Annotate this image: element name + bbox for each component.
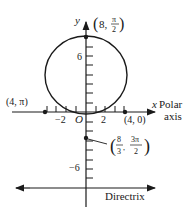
svg-text:2: 2 xyxy=(112,25,116,34)
polar-axis-label-2: axis xyxy=(164,110,182,122)
y-axis-label: y xyxy=(74,14,80,26)
origin-label: O xyxy=(75,113,83,125)
tick-label-neg6: −6 xyxy=(69,162,80,173)
point-top xyxy=(84,35,88,39)
label-top-point: ( 8, π 2 ) xyxy=(93,15,124,34)
svg-text:8,: 8, xyxy=(99,18,108,30)
point-bottom xyxy=(84,136,88,140)
svg-text:): ) xyxy=(119,15,124,33)
svg-text:,: , xyxy=(123,143,125,152)
tick-label-2: 2 xyxy=(101,114,106,125)
svg-text:(: ( xyxy=(93,15,98,33)
svg-text:8: 8 xyxy=(117,135,121,144)
svg-text:3π: 3π xyxy=(131,135,139,144)
label-bottom-point: ( 8 3 , 3π 2 ) xyxy=(110,135,150,157)
label-left-point: (4, π) xyxy=(6,96,28,108)
svg-text:(: ( xyxy=(110,136,116,157)
point-left xyxy=(43,110,47,114)
polar-axis-label-1: Polar xyxy=(159,98,183,110)
svg-text:2: 2 xyxy=(134,147,138,156)
tick-label-6: 6 xyxy=(77,51,82,62)
polar-conic-diagram: y x Polar axis O −2 2 6 −6 ( 8, π 2 ) (4… xyxy=(0,0,196,211)
tick-label-neg2: −2 xyxy=(55,114,66,125)
label-right-point: (4, 0) xyxy=(124,114,146,126)
svg-text:π: π xyxy=(112,15,116,24)
directrix-label: Directrix xyxy=(105,190,145,202)
x-axis-label: x xyxy=(151,98,157,110)
svg-text:3: 3 xyxy=(117,147,121,156)
svg-text:): ) xyxy=(144,136,150,157)
